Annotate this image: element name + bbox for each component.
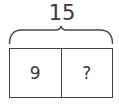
part-unknown: ? [61, 49, 113, 97]
part-known-value: 9 [30, 63, 41, 83]
part-known: 9 [10, 49, 61, 97]
tape-bar: 9 ? [9, 48, 113, 98]
part-unknown-value: ? [82, 63, 91, 83]
